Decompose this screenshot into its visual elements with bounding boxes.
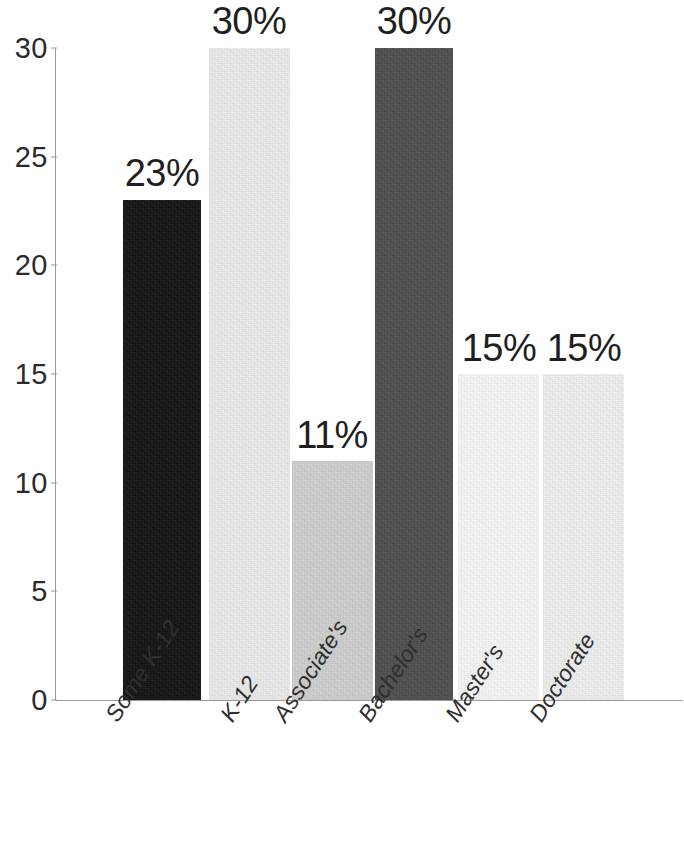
y-tick-label-5: 5 <box>2 575 48 608</box>
bar-chart: 30 25 20 15 10 5 0 <box>0 0 684 851</box>
y-tick-label-10: 10 <box>2 466 48 499</box>
y-tick-mark-25 <box>51 156 57 157</box>
y-tick-mark-15 <box>51 374 57 375</box>
bar-value-label-associates: 11% <box>273 414 391 457</box>
y-tick-label-25: 25 <box>2 140 48 173</box>
y-tick-label-20: 20 <box>2 249 48 282</box>
y-tick-mark-5 <box>51 591 57 592</box>
bar-value-label-bachelors: 30% <box>355 0 473 43</box>
y-tick-mark-20 <box>51 265 57 266</box>
bar-value-label-k12: 30% <box>190 0 308 43</box>
bar-value-label-doctorate: 15% <box>525 327 643 370</box>
bar-bachelors[interactable] <box>375 48 453 700</box>
chart-page: 30 25 20 15 10 5 0 <box>0 0 684 851</box>
y-tick-mark-30 <box>51 48 57 49</box>
y-tick-mark-0 <box>51 700 57 701</box>
y-tick-label-0: 0 <box>2 684 48 717</box>
bar-texture <box>209 48 290 700</box>
bar-value-label-some-k12: 23% <box>103 152 221 195</box>
y-tick-mark-10 <box>51 482 57 483</box>
y-tick-label-30: 30 <box>2 32 48 65</box>
bar-texture <box>375 48 453 700</box>
y-tick-label-15: 15 <box>2 358 48 391</box>
bar-k12[interactable] <box>209 48 290 700</box>
